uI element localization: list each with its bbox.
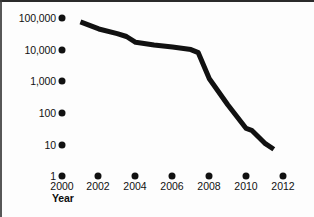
chart-figure: Cost (thousands of dollars; ratio scale)… (0, 0, 314, 217)
cost-series-line (80, 22, 273, 149)
data-line-svg (0, 0, 314, 217)
plot-area: Cost (thousands of dollars; ratio scale)… (0, 0, 314, 217)
